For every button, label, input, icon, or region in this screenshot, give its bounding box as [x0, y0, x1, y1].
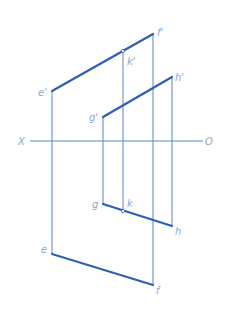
segment-e-f — [52, 254, 153, 285]
axis-label-o: O — [205, 136, 213, 147]
point-label-e-prime: e' — [38, 87, 47, 98]
point-label-g-prime: g' — [89, 112, 98, 123]
point-label-g: g — [92, 199, 98, 210]
point-label-e: e — [41, 244, 47, 255]
point-label-k-prime: k' — [127, 56, 136, 67]
diagram-canvas: X O e'f'k'g'h'efgkh — [0, 0, 227, 320]
point-label-h-prime: h' — [175, 72, 184, 83]
segment-g-h — [103, 204, 172, 226]
point-marker-k — [121, 209, 124, 212]
x-o-axis: X O — [17, 136, 213, 147]
axis-label-x: X — [17, 136, 26, 147]
point-label-f-prime: f' — [157, 27, 163, 38]
projection-diagram: X O e'f'k'g'h'efgkh — [0, 0, 227, 320]
projection-lines — [52, 34, 172, 285]
segment-e_prime-f_prime — [52, 34, 153, 91]
point-marker-k_prime — [121, 49, 124, 52]
point-label-h: h — [175, 226, 181, 237]
point-label-f: f — [156, 285, 161, 296]
point-label-k: k — [127, 198, 134, 209]
segment-g_prime-h_prime — [103, 77, 172, 117]
line-segments — [52, 34, 172, 285]
